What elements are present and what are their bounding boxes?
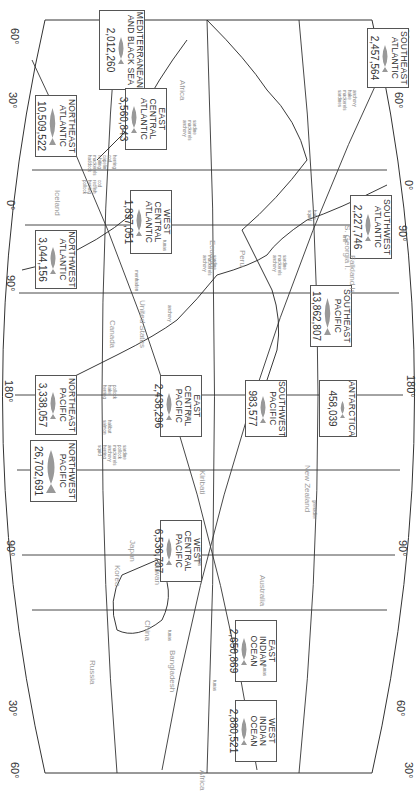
species-label: sardine mackerels anchovy <box>202 255 217 276</box>
species-label: grenadier <box>312 500 317 519</box>
region-east-central-atlantic: EAST CENTRAL ATLANTIC 3,560,843 <box>125 88 167 150</box>
country-label: Russia <box>88 660 97 684</box>
map-canvas: 30° 60° 0° 90° 180° 90° 60° 30° 60° 30° … <box>0 0 417 793</box>
species-label: cod redfish herring pollock <box>82 180 102 194</box>
fish-icon <box>165 391 173 421</box>
tick-lon: 0° <box>5 200 17 211</box>
fish-icon <box>381 43 389 73</box>
species-label: tunas <box>162 240 167 251</box>
species-label: tunas <box>167 630 172 641</box>
tick-lat: 60° <box>9 28 21 45</box>
species-label: halibut salmon <box>102 420 112 435</box>
world-fishing-map: 30° 60° 0° 90° 180° 90° 60° 30° 60° 30° … <box>0 0 417 793</box>
region-northeast-atlantic: NORTHEAST ATLANTIC 10,509,522 <box>35 95 77 157</box>
species-label: pollock hake herring <box>102 385 117 399</box>
region-west-indian-ocean: WEST INDIAN OCEAN 2,880,521 <box>235 700 277 762</box>
region-northwest-atlantic: NORTHWEST ATLANTIC 3,044,156 <box>35 230 77 289</box>
tick-lat: 60° <box>393 92 405 109</box>
species-label: anchovy <box>167 305 172 322</box>
fish-icon <box>165 536 173 566</box>
country-label: Africa <box>178 80 187 100</box>
tick-lon: 90° <box>5 540 17 557</box>
tick-lon: 180° <box>405 375 417 398</box>
region-antarctica: ANTARCTICA 458,039 <box>319 380 357 437</box>
tick-lat: 30° <box>403 762 415 779</box>
country-label: New Zealand <box>303 465 312 512</box>
fish-icon <box>49 390 57 420</box>
country-label: Bangladesh <box>168 650 177 692</box>
country-label: Iceland <box>53 190 62 216</box>
fish-icon <box>117 35 125 65</box>
species-label: anchovy hake mackerels sardines <box>337 90 357 111</box>
species-label: menhaden <box>134 270 139 291</box>
tick-lon: 90° <box>5 275 17 292</box>
fish-icon <box>323 296 332 336</box>
country-label: Australia <box>258 575 267 606</box>
fish-icon <box>339 399 346 419</box>
tick-lon: 180° <box>3 380 15 403</box>
tick-lat: 30° <box>7 92 19 109</box>
region-southwest-pacific: SOUTHWEST PACIFIC 983,577 <box>245 380 287 437</box>
country-label: Taiwan <box>153 560 162 585</box>
fish-icon <box>135 207 143 237</box>
region-east-central-pacific: EAST CENTRAL PACIFIC 2,438,296 <box>160 375 202 437</box>
region-east-indian-ocean: EAST INDIAN OCEAN 2,650,869 <box>235 620 277 682</box>
region-northeast-pacific: NORTHEAST PACIFIC 3,338,057 <box>35 375 77 435</box>
species-label: tunas <box>212 680 217 691</box>
country-label: Canada <box>108 320 117 348</box>
country-label: Peru <box>238 250 247 267</box>
tick-lon: 90° <box>397 225 409 242</box>
fish-icon <box>45 448 57 494</box>
region-southwest-atlantic: SOUTHWEST ATLANTIC 2,227,746 <box>350 195 392 259</box>
tick-lon: 0° <box>403 180 415 191</box>
tick-lat: 60° <box>395 700 407 717</box>
species-label: tunas <box>187 410 192 421</box>
fish-icon <box>259 394 267 424</box>
country-label: Korea <box>113 565 122 586</box>
country-label: Kiribati <box>198 470 207 494</box>
region-mediterranean: MEDITERRANEAN AND BLACK SEA 2,012,260 <box>99 10 145 90</box>
species-label: hake squid <box>307 210 317 221</box>
species-label: tunas <box>197 555 202 566</box>
region-southeast-atlantic: SOUTHEAST ATLANTIC 2,457,564 <box>367 28 409 88</box>
country-label: Japan <box>128 540 137 562</box>
coast-eurasia <box>207 20 307 410</box>
fish-icon <box>48 106 57 146</box>
species-label: tunas <box>262 665 267 676</box>
region-northwest-pacific: NORTHWEST PACIFIC 26,702,691 <box>30 440 77 502</box>
fish-icon <box>240 636 248 666</box>
species-label: sardine mackerels anchovy <box>272 255 287 276</box>
region-west-central-pacific: WEST CENTRAL PACIFIC 6,536,707 <box>160 520 202 582</box>
tick-lat: 30° <box>7 700 19 717</box>
country-label: United States <box>138 300 147 348</box>
country-label: S. Georgia I. <box>343 225 352 270</box>
species-label: herring cod capelin whiting mackerels ha… <box>87 155 117 176</box>
fish-icon <box>364 212 372 242</box>
species-label: sardine pollock mackerels anchovy herrin… <box>97 445 127 466</box>
species-label: krill <box>342 235 347 242</box>
species-label: sardine mackerels anchovy <box>182 120 197 141</box>
region-southeast-pacific: SOUTHEAST PACIFIC 13,862,807 <box>310 285 352 347</box>
country-label: Africa <box>198 770 207 790</box>
tick-lat: 60° <box>9 762 21 779</box>
fish-icon <box>240 716 248 746</box>
country-label: China <box>143 620 152 641</box>
fish-icon <box>49 245 57 275</box>
tick-lon: 90° <box>397 540 409 557</box>
fish-icon <box>130 104 138 134</box>
